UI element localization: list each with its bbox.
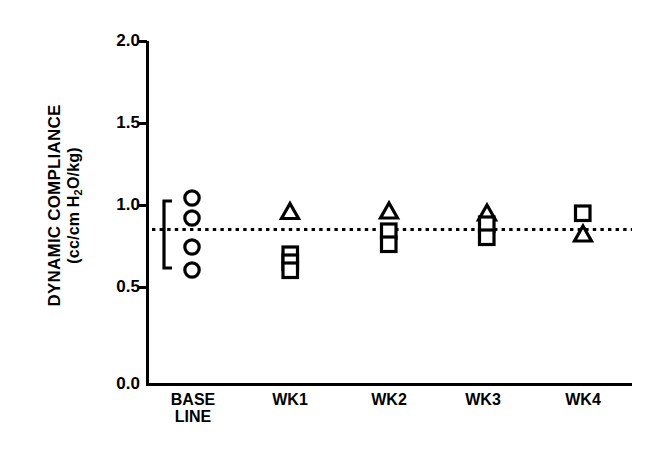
wk4-markers: [575, 206, 592, 241]
baseline-circle-markers: [185, 191, 199, 277]
wk3-markers: [479, 205, 496, 245]
wk1-markers: [282, 204, 299, 278]
baseline-range-bracket: [164, 201, 172, 268]
data-point-triangle: [575, 226, 592, 241]
data-point-circle: [185, 263, 199, 277]
data-point-square: [283, 263, 298, 278]
data-point-circle: [185, 191, 199, 205]
y-axis-ticks: [139, 42, 147, 288]
data-point-circle: [185, 240, 199, 254]
data-point-circle: [185, 211, 199, 225]
data-point-square: [480, 230, 495, 245]
data-point-square: [382, 237, 397, 252]
data-point-triangle: [282, 204, 299, 219]
wk2-markers: [381, 203, 398, 252]
data-point-square: [576, 206, 591, 221]
dynamic-compliance-scatter-chart: DYNAMIC COMPLIANCE (cc/cm H2O/kg) 2.0 1.…: [0, 0, 650, 455]
plot-area: [0, 0, 650, 455]
data-point-triangle: [381, 203, 398, 218]
